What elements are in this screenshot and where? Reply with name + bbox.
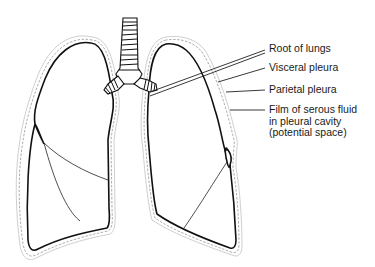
label-serous-fluid-film: Film of serous fluid in pleural cavity (… [269,104,357,139]
right-lung [16,36,119,260]
label-root-of-lungs: Root of lungs [269,43,331,55]
trachea [116,18,142,84]
label-parietal-pleura: Parietal pleura [269,84,337,96]
leader-parietal [226,90,265,92]
leader-visceral [218,68,265,82]
label-visceral-pleura: Visceral pleura [269,62,338,74]
left-lung [141,36,242,256]
